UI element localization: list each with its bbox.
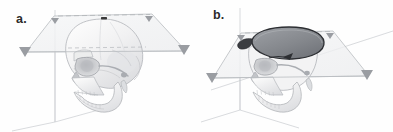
external-auditory-meatus <box>121 73 127 78</box>
cranial-cavity-interior <box>252 27 324 59</box>
panel-a-scene <box>0 0 196 132</box>
axis-depth-right-b <box>240 110 299 128</box>
skull-a <box>66 19 143 112</box>
panel-b-scene <box>197 0 393 132</box>
skull-cutting-plane-figure: a. <box>0 0 393 132</box>
orbit-depth-shade <box>81 60 94 72</box>
mastoid-process-b <box>306 78 312 91</box>
axis-depth-left <box>12 122 55 131</box>
panel-a: a. <box>0 0 196 132</box>
panel-b: b. <box>197 0 393 132</box>
external-auditory-meatus-b <box>304 71 310 75</box>
vertex-marker <box>101 17 107 19</box>
temporal-fossa <box>107 50 137 74</box>
axis-depth-left-b <box>201 110 240 122</box>
orbit-depth-shade-b <box>259 61 271 72</box>
